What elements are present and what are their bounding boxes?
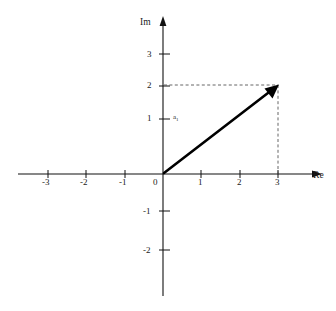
y-tick-label--2: -2 bbox=[143, 246, 151, 255]
x-tick-label-2: 2 bbox=[237, 178, 242, 187]
y-tick-label-2: 2 bbox=[147, 81, 152, 90]
y-tick-label--1: -1 bbox=[143, 207, 151, 216]
x-tick-label--3: -3 bbox=[42, 178, 50, 187]
plot-canvas bbox=[0, 0, 336, 311]
origin-label: 0 bbox=[153, 178, 158, 187]
x-axis-label: Re bbox=[313, 171, 324, 181]
x-tick-label--1: -1 bbox=[119, 178, 127, 187]
complex-plane-figure: Im Re -3 -2 -1 1 2 3 0 3 2 1 -1 -2 a1 bbox=[0, 0, 336, 311]
y-tick-label-3: 3 bbox=[147, 50, 152, 59]
vector-a1-arrowhead bbox=[265, 85, 280, 99]
vector-a1-shaft bbox=[164, 90, 273, 174]
x-tick-label-3: 3 bbox=[275, 178, 280, 187]
y-axis-label: Im bbox=[140, 18, 151, 28]
vector-a1-label-subscript: 1 bbox=[176, 117, 178, 122]
x-tick-label--2: -2 bbox=[80, 178, 88, 187]
vector-a1-label: a1 bbox=[173, 114, 178, 122]
y-axis-arrowhead bbox=[160, 16, 167, 26]
y-tick-label-1: 1 bbox=[147, 114, 152, 123]
x-tick-label-1: 1 bbox=[198, 178, 203, 187]
